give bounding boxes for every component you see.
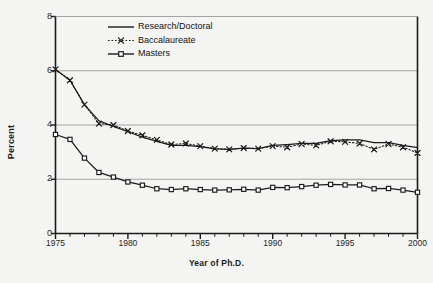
marker-masters xyxy=(386,186,390,190)
marker-masters xyxy=(401,188,405,192)
marker-masters xyxy=(169,187,173,191)
marker-masters xyxy=(140,183,144,187)
marker-masters xyxy=(126,180,130,184)
marker-masters xyxy=(198,187,202,191)
series-line-research-doctoral xyxy=(56,69,418,149)
marker-masters xyxy=(184,187,188,191)
marker-masters xyxy=(372,187,376,191)
marker-masters xyxy=(314,183,318,187)
marker-masters xyxy=(300,184,304,188)
marker-masters xyxy=(97,170,101,174)
x-axis-label: Year of Ph.D. xyxy=(0,258,433,268)
marker-baccalaureate xyxy=(82,102,87,107)
marker-masters xyxy=(68,137,72,141)
marker-masters xyxy=(53,132,57,136)
marker-masters xyxy=(256,188,260,192)
plot-area xyxy=(0,0,433,283)
series-line-masters xyxy=(56,134,418,192)
legend-glyph-masters-marker xyxy=(119,52,124,57)
marker-masters xyxy=(329,182,333,186)
marker-masters xyxy=(213,188,217,192)
marker-masters xyxy=(227,188,231,192)
chart-figure: Percent 02468 197519801985199019952000 R… xyxy=(0,0,433,283)
marker-masters xyxy=(155,187,159,191)
x-axis-label-text: Year of Ph.D. xyxy=(189,258,244,268)
marker-masters xyxy=(111,175,115,179)
marker-masters xyxy=(242,187,246,191)
marker-baccalaureate xyxy=(67,78,72,83)
marker-masters xyxy=(357,183,361,187)
marker-masters xyxy=(82,156,86,160)
marker-masters xyxy=(415,190,419,194)
marker-masters xyxy=(285,186,289,190)
marker-masters xyxy=(271,185,275,189)
marker-masters xyxy=(343,183,347,187)
marker-baccalaureate xyxy=(372,147,377,152)
